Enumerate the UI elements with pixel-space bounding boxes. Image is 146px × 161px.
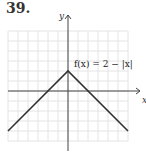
y-axis-label: y <box>58 11 65 21</box>
function-graph: x y f(x) = 2 − |x| <box>0 0 146 161</box>
function-annotation: f(x) = 2 − |x| <box>74 59 133 70</box>
x-axis-label: x <box>142 95 146 105</box>
